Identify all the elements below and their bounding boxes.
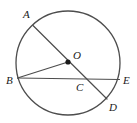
point-label-a: A [22, 8, 30, 20]
circle-geometry-diagram: A B O C D E [0, 0, 137, 123]
point-label-b: B [6, 74, 13, 86]
point-label-o: O [73, 49, 81, 61]
point-label-d: D [108, 101, 117, 113]
chord-be-line [18, 78, 120, 80]
geometry-figure: A B O C D E [0, 0, 137, 123]
center-point-dot [65, 59, 70, 64]
point-label-e: E [122, 74, 130, 86]
radius-bo-line [18, 62, 69, 78]
point-label-c: C [76, 81, 84, 93]
